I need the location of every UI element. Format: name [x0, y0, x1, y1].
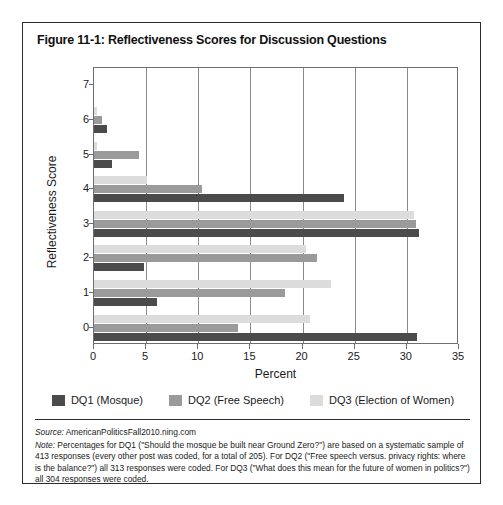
figure-footer: Source: AmericanPoliticsFall2010.ning.co…	[35, 427, 472, 486]
x-tick-label-0: 0	[78, 350, 108, 362]
bar-dq1-score-4	[94, 194, 344, 202]
legend-item-1: DQ1 (Mosque)	[52, 394, 143, 406]
x-tick-label-20: 20	[287, 350, 317, 362]
y-tick-label-5: 5	[67, 148, 89, 160]
x-tick-label-30: 30	[391, 350, 421, 362]
bar-dq3-score-1	[94, 280, 331, 288]
y-tick-label-0: 0	[67, 321, 89, 333]
y-tick-label-2: 2	[67, 251, 89, 263]
x-tick-mark-0	[93, 344, 94, 349]
bars-layer	[94, 68, 457, 343]
source-label: Source:	[35, 427, 64, 437]
bar-dq2-score-5	[94, 151, 139, 159]
x-tick-label-25: 25	[339, 350, 369, 362]
x-tick-label-5: 5	[130, 350, 160, 362]
y-tick-label-7: 7	[67, 78, 89, 90]
x-axis-ticks: 05101520253035	[93, 344, 458, 366]
chart-area: Reflectiveness Score 01234567 0510152025…	[23, 23, 482, 485]
y-tick-mark-0	[89, 327, 93, 328]
x-tick-mark-35	[458, 344, 459, 349]
source-text: AmericanPoliticsFall2010.ning.com	[64, 427, 196, 437]
legend-item-3: DQ3 (Election of Women)	[310, 394, 454, 406]
bar-dq2-score-2	[94, 254, 317, 262]
bar-dq2-score-4	[94, 185, 202, 193]
x-tick-mark-15	[249, 344, 250, 349]
y-tick-mark-1	[89, 292, 93, 293]
legend-swatch-icon-1	[52, 395, 65, 406]
y-axis-tick-labels: 01234567	[63, 67, 89, 344]
note-label: Note:	[35, 440, 55, 450]
legend-label-1: DQ1 (Mosque)	[71, 394, 143, 406]
bar-dq1-score-0	[94, 333, 417, 341]
x-tick-label-10: 10	[182, 350, 212, 362]
x-tick-mark-20	[302, 344, 303, 349]
bar-dq3-score-2	[94, 245, 306, 253]
x-tick-mark-10	[197, 344, 198, 349]
note-text: Percentages for DQ1 ("Should the mosque …	[35, 440, 470, 485]
legend-swatch-icon-3	[310, 395, 323, 406]
legend-swatch-icon-2	[169, 395, 182, 406]
bar-dq2-score-6	[94, 116, 102, 124]
bar-dq3-score-4	[94, 176, 147, 184]
x-tick-mark-30	[406, 344, 407, 349]
y-tick-label-6: 6	[67, 113, 89, 125]
y-tick-mark-2	[89, 257, 93, 258]
x-tick-label-15: 15	[234, 350, 264, 362]
legend-label-2: DQ2 (Free Speech)	[188, 394, 284, 406]
bar-dq2-score-3	[94, 220, 416, 228]
y-tick-label-4: 4	[67, 182, 89, 194]
footer-divider	[35, 419, 470, 420]
x-tick-mark-5	[145, 344, 146, 349]
figure-card: Figure 11-1: Reflectiveness Scores for D…	[22, 22, 481, 484]
source-line: Source: AmericanPoliticsFall2010.ning.co…	[35, 427, 472, 439]
bar-dq1-score-6	[94, 125, 107, 133]
legend-item-2: DQ2 (Free Speech)	[169, 394, 284, 406]
x-tick-mark-25	[354, 344, 355, 349]
x-tick-label-35: 35	[443, 350, 473, 362]
bar-dq1-score-1	[94, 298, 157, 306]
bar-dq1-score-2	[94, 263, 144, 271]
y-tick-label-3: 3	[67, 217, 89, 229]
x-axis-title: Percent	[93, 367, 458, 381]
bar-dq1-score-5	[94, 160, 112, 168]
bar-dq1-score-3	[94, 229, 419, 237]
bar-dq3-score-3	[94, 211, 414, 219]
bar-dq3-score-5	[94, 142, 97, 150]
y-tick-mark-3	[89, 223, 93, 224]
y-tick-mark-6	[89, 119, 93, 120]
bar-dq3-score-6	[94, 107, 97, 115]
y-tick-mark-4	[89, 188, 93, 189]
y-axis-title: Reflectiveness Score	[45, 122, 59, 302]
bar-dq2-score-1	[94, 289, 285, 297]
note-line: Note: Percentages for DQ1 ("Should the m…	[35, 440, 472, 486]
plot-area	[93, 67, 458, 344]
bar-dq3-score-0	[94, 315, 310, 323]
y-tick-mark-7	[89, 84, 93, 85]
chart-legend: DQ1 (Mosque)DQ2 (Free Speech)DQ3 (Electi…	[53, 392, 453, 408]
y-tick-mark-5	[89, 154, 93, 155]
legend-label-3: DQ3 (Election of Women)	[329, 394, 454, 406]
y-tick-label-1: 1	[67, 286, 89, 298]
bar-dq2-score-0	[94, 324, 238, 332]
